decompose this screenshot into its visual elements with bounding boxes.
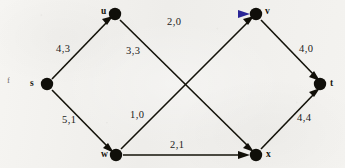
node-v[interactable] bbox=[250, 8, 262, 20]
node-label-u: u bbox=[101, 7, 106, 17]
edge-s-w-line bbox=[52, 90, 109, 148]
edge-label-s-w: 5,1 bbox=[62, 115, 76, 126]
node-t[interactable] bbox=[314, 78, 326, 90]
edge-label-w-v: 1,0 bbox=[130, 110, 144, 121]
edge-u-v bbox=[121, 10, 250, 18]
edge-u-v-arrowhead bbox=[238, 10, 250, 18]
edge-w-v bbox=[121, 16, 254, 149]
edge-u-x bbox=[120, 20, 254, 152]
edge-label-v-t: 4,0 bbox=[299, 44, 313, 55]
edge-w-x bbox=[123, 151, 250, 159]
edge-w-x-arrowhead bbox=[238, 151, 250, 159]
node-u[interactable] bbox=[109, 8, 121, 20]
edge-label-w-x: 2,1 bbox=[170, 140, 184, 151]
edge-label-u-v: 2,0 bbox=[167, 17, 181, 28]
node-label-x: x bbox=[266, 150, 271, 160]
node-x[interactable] bbox=[250, 149, 262, 161]
edge-u-x-line bbox=[120, 20, 249, 147]
figure-corner-label: f bbox=[7, 76, 10, 85]
node-label-w: w bbox=[101, 150, 108, 160]
node-s[interactable] bbox=[41, 78, 53, 90]
node-w[interactable] bbox=[110, 149, 122, 161]
node-label-t: t bbox=[330, 79, 333, 89]
edge-label-u-x: 3,3 bbox=[126, 46, 140, 57]
edge-label-x-t: 4,4 bbox=[297, 113, 311, 124]
flow-network-figure: s u w v x t 4,3 5,1 2,0 3,3 1,0 2,1 4,0 … bbox=[0, 0, 345, 168]
node-label-v: v bbox=[265, 7, 270, 17]
node-label-s: s bbox=[30, 79, 34, 89]
edge-label-s-u: 4,3 bbox=[56, 44, 70, 55]
